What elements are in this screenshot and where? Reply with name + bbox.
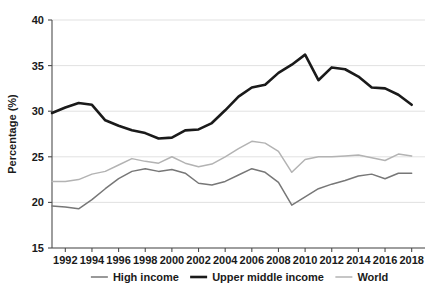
x-axis-ticks: 1992199419961998200020022004200620082010… (53, 248, 424, 266)
gridlines (52, 20, 425, 248)
legend-item[interactable]: High income (91, 271, 179, 283)
x-tick-label: 2006 (240, 254, 264, 266)
x-tick-label: 1992 (53, 254, 77, 266)
data-series (52, 55, 412, 209)
x-tick-label: 2002 (186, 254, 210, 266)
x-tick-label: 2014 (346, 254, 371, 266)
legend-label: High income (113, 271, 179, 283)
y-tick-label: 20 (32, 196, 44, 208)
y-tick-label: 15 (32, 242, 44, 254)
legend-item[interactable]: World (335, 271, 388, 283)
y-axis-title: Percentage (%) (6, 94, 18, 174)
x-tick-label: 2018 (399, 254, 423, 266)
y-tick-label: 25 (32, 151, 44, 163)
x-tick-label: 2010 (293, 254, 317, 266)
line-chart: 403530252015 199219941996199820002002200… (0, 0, 435, 297)
legend-label: Upper middle income (212, 271, 324, 283)
x-tick-label: 1994 (80, 254, 105, 266)
y-tick-label: 35 (32, 60, 44, 72)
x-tick-label: 1998 (133, 254, 157, 266)
legend-label: World (357, 271, 388, 283)
y-axis: 403530252015 (32, 14, 52, 254)
x-tick-label: 2012 (320, 254, 344, 266)
x-tick-label: 2016 (373, 254, 397, 266)
y-tick-label: 40 (32, 14, 44, 26)
x-axis: 1992199419961998200020022004200620082010… (52, 248, 425, 266)
chart-legend: High incomeUpper middle incomeWorld (91, 271, 388, 283)
y-tick-label: 30 (32, 105, 44, 117)
x-tick-label: 2004 (213, 254, 238, 266)
legend-item[interactable]: Upper middle income (190, 271, 324, 283)
y-axis-ticks: 403530252015 (32, 14, 52, 254)
x-tick-label: 1996 (106, 254, 130, 266)
x-tick-label: 2008 (266, 254, 290, 266)
series-line-upper-middle-income (52, 55, 412, 139)
chart-canvas: 403530252015 199219941996199820002002200… (0, 0, 435, 297)
x-tick-label: 2000 (160, 254, 184, 266)
